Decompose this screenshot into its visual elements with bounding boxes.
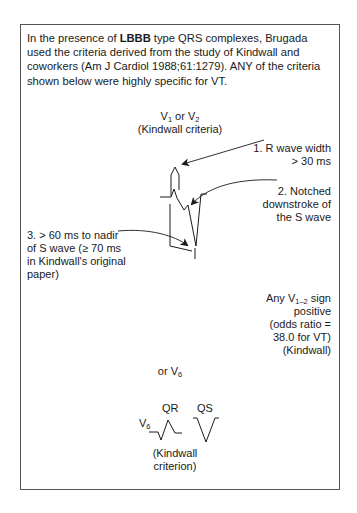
v1-v2-qrs-waveform xyxy=(160,167,207,259)
ecg-diagram xyxy=(0,0,357,513)
v6-qs-waveform xyxy=(193,418,219,442)
arrow-criterion-1 xyxy=(183,140,264,164)
arrow-criterion-2 xyxy=(192,180,277,204)
arrow-criterion-3 xyxy=(118,230,187,245)
v6-qr-waveform xyxy=(149,420,182,440)
